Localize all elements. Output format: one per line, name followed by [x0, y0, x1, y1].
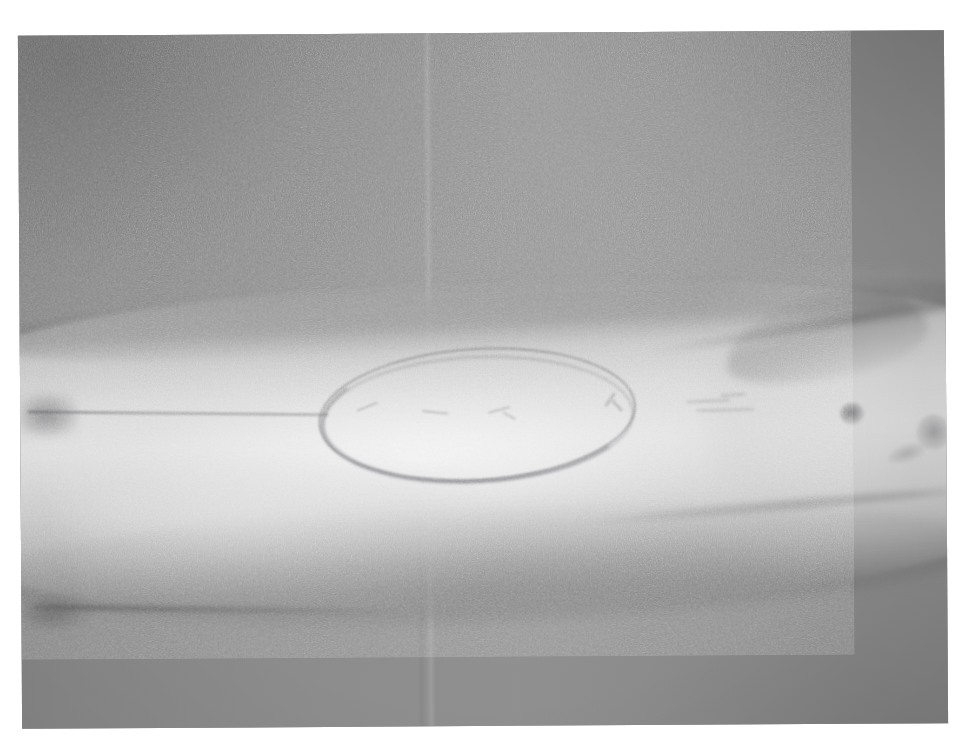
- clinical-photograph: [18, 30, 948, 729]
- backdrop-vignette-top-right: [563, 30, 948, 296]
- skin-lesion-upper: [840, 403, 864, 425]
- guide-line-terminus-mark: [20, 393, 78, 435]
- photograph-canvas: [18, 30, 948, 729]
- screenshot-root: Grainy low-contrast greyscale photograph…: [0, 0, 967, 754]
